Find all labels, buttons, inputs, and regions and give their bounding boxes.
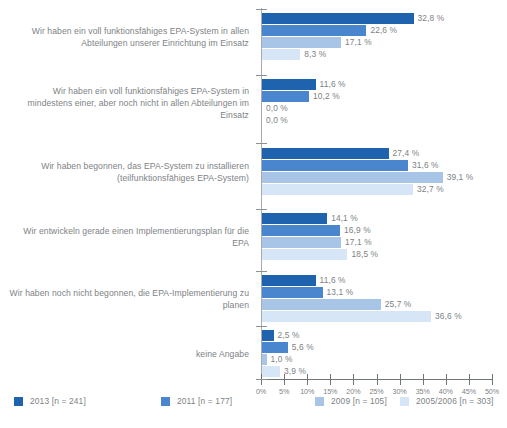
- legend-label: 2009 [n = 105]: [331, 396, 387, 406]
- bar: [262, 25, 366, 36]
- bar-value-label: 32,7 %: [417, 183, 444, 195]
- bar-value-label: 3,9 %: [284, 365, 306, 377]
- bar: [262, 249, 347, 260]
- category-label: keine Angabe: [9, 348, 249, 360]
- x-tick: [423, 374, 424, 385]
- bar: [262, 287, 323, 298]
- bar: [262, 37, 341, 48]
- category-label: Wir entwickeln gerade einen Implementier…: [9, 225, 249, 249]
- category-separator-tick: [256, 326, 267, 327]
- x-tick-label: 0%: [256, 387, 266, 396]
- bar-value-label: 10,2 %: [313, 90, 340, 102]
- category-separator-tick: [256, 271, 267, 272]
- bar: [262, 13, 414, 24]
- category-label: Wir haben ein voll funktionsfähiges EPA-…: [9, 85, 249, 122]
- legend-label: 2011 [n = 177]: [177, 396, 232, 406]
- legend-item[interactable]: 2011 [n = 177]: [161, 396, 232, 406]
- bar-value-label: 39,1 %: [447, 171, 474, 183]
- chart-legend: 2013 [n = 241]2011 [n = 177]2009 [n = 10…: [0, 396, 507, 420]
- bar-value-label: 27,4 %: [393, 147, 420, 159]
- bar-value-label: 31,6 %: [412, 159, 439, 171]
- plot-area: 0%5%10%15%20%25%30%35%40%45%50% Wir habe…: [0, 0, 507, 388]
- x-tick: [469, 374, 470, 385]
- x-tick-label: 15%: [323, 387, 337, 396]
- x-tick: [400, 374, 401, 385]
- bar: [262, 91, 309, 102]
- bar-value-label: 1,0 %: [271, 353, 293, 365]
- category-separator-tick: [256, 209, 267, 210]
- x-tick-label: 20%: [346, 387, 360, 396]
- bar: [262, 275, 316, 286]
- legend-swatch: [400, 397, 409, 406]
- bar-value-label: 13,1 %: [327, 286, 354, 298]
- legend-swatch: [161, 397, 170, 406]
- bar-value-label: 32,8 %: [418, 12, 445, 24]
- bar-chart: 0%5%10%15%20%25%30%35%40%45%50% Wir habe…: [0, 0, 507, 428]
- bar: [262, 172, 443, 183]
- x-tick-label: 30%: [393, 387, 407, 396]
- bar-value-label: 0,0 %: [266, 114, 288, 126]
- x-tick: [492, 374, 493, 385]
- category-separator-tick: [256, 379, 267, 380]
- category-separator-tick: [256, 9, 267, 10]
- legend-label: 2005/2006 [n = 303]: [416, 396, 494, 406]
- bar-value-label: 25,7 %: [385, 298, 412, 310]
- bar: [262, 79, 316, 90]
- x-tick: [377, 374, 378, 385]
- legend-item[interactable]: 2013 [n = 241]: [14, 396, 86, 406]
- x-tick: [307, 374, 308, 385]
- bar-value-label: 0,0 %: [266, 102, 288, 114]
- bar-value-label: 22,6 %: [370, 24, 397, 36]
- x-tick-label: 40%: [439, 387, 453, 396]
- x-tick-label: 35%: [416, 387, 430, 396]
- bar: [262, 237, 341, 248]
- x-tick-label: 10%: [300, 387, 314, 396]
- bar-value-label: 14,1 %: [331, 212, 358, 224]
- legend-item[interactable]: 2009 [n = 105]: [315, 396, 387, 406]
- category-separator-tick: [256, 143, 267, 144]
- bar: [262, 299, 381, 310]
- bar: [262, 49, 300, 60]
- bar-value-label: 11,6 %: [320, 274, 346, 286]
- bar-value-label: 17,1 %: [345, 36, 372, 48]
- x-tick-label: 45%: [462, 387, 476, 396]
- legend-label: 2013 [n = 241]: [30, 396, 86, 406]
- bar: [262, 184, 413, 195]
- bar: [262, 213, 327, 224]
- bar-value-label: 11,6 %: [320, 78, 346, 90]
- bar: [262, 330, 274, 341]
- x-tick: [353, 374, 354, 385]
- bar: [262, 148, 389, 159]
- bar-value-label: 2,5 %: [278, 329, 300, 341]
- category-label: Wir haben noch nicht begonnen, die EPA-I…: [9, 287, 249, 311]
- legend-swatch: [315, 397, 324, 406]
- bar: [262, 225, 340, 236]
- x-tick-label: 25%: [369, 387, 383, 396]
- bar: [262, 366, 280, 377]
- bar: [262, 160, 408, 171]
- x-tick-label: 50%: [485, 387, 499, 396]
- legend-swatch: [14, 397, 23, 406]
- bar-value-label: 17,1 %: [345, 236, 372, 248]
- x-tick: [330, 374, 331, 385]
- x-tick: [446, 374, 447, 385]
- legend-item[interactable]: 2005/2006 [n = 303]: [400, 396, 494, 406]
- x-tick-label: 5%: [279, 387, 289, 396]
- bar: [262, 311, 431, 322]
- bar-value-label: 18,5 %: [351, 248, 378, 260]
- bar-value-label: 8,3 %: [304, 48, 326, 60]
- bar-value-label: 36,6 %: [435, 310, 462, 322]
- category-label: Wir haben begonnen, das EPA-System zu in…: [9, 160, 249, 184]
- bar-value-label: 5,6 %: [292, 341, 314, 353]
- bar: [262, 342, 288, 353]
- bar-value-label: 16,9 %: [344, 224, 371, 236]
- category-separator-tick: [256, 75, 267, 76]
- category-label: Wir haben ein voll funktionsfähiges EPA-…: [9, 25, 249, 49]
- bar: [262, 354, 267, 365]
